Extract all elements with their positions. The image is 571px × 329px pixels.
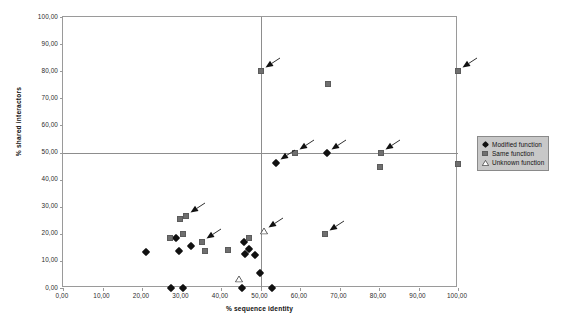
scatter-chart: 0,0010,0020,0030,0040,0050,0060,0070,008… — [0, 0, 571, 329]
data-point-diamond — [172, 234, 180, 242]
x-tick-mark — [379, 288, 380, 291]
data-point-diamond — [167, 284, 175, 292]
data-point-square — [455, 68, 461, 74]
data-point-square — [322, 231, 328, 237]
data-point-diamond — [238, 284, 246, 292]
x-tick-mark — [103, 288, 104, 291]
data-point-diamond — [178, 284, 186, 292]
y-tick-mark — [60, 44, 63, 45]
data-point-diamond — [186, 242, 194, 250]
data-point-square — [183, 213, 189, 219]
y-tick-mark — [60, 153, 63, 154]
data-point-diamond — [323, 149, 331, 157]
data-point-triangle — [235, 276, 243, 283]
x-tick-label: 10,00 — [82, 292, 122, 299]
data-point-square — [167, 235, 173, 241]
legend-item-unknown-function: Unknown function — [481, 158, 544, 167]
y-tick-mark — [60, 98, 63, 99]
x-tick-label: 90,00 — [398, 292, 438, 299]
y-tick-mark — [60, 261, 63, 262]
plot-area — [62, 16, 457, 287]
x-tick-label: 20,00 — [121, 292, 161, 299]
y-tick-label: 70,00 — [42, 94, 59, 101]
x-tick-mark — [221, 288, 222, 291]
y-tick-label: 20,00 — [42, 229, 59, 236]
chart-legend: Modified function Same function Unknown … — [477, 136, 549, 171]
data-point-square — [258, 68, 264, 74]
data-point-diamond — [268, 284, 276, 292]
data-point-square — [225, 247, 231, 253]
y-tick-mark — [60, 180, 63, 181]
y-tick-mark — [60, 207, 63, 208]
data-point-diamond — [271, 159, 279, 167]
y-tick-label: 0,00 — [45, 284, 58, 291]
x-tick-label: 70,00 — [319, 292, 359, 299]
x-tick-label: 80,00 — [358, 292, 398, 299]
legend-item-label: Unknown function — [492, 159, 544, 167]
x-tick-label: 100,00 — [437, 292, 477, 299]
data-point-diamond — [174, 247, 182, 255]
data-point-square — [378, 150, 384, 156]
legend-item-same-function: Same function — [481, 149, 544, 158]
x-tick-label: 30,00 — [161, 292, 201, 299]
legend-item-label: Same function — [492, 150, 534, 158]
y-tick-label: 10,00 — [42, 256, 59, 263]
diamond-marker-icon — [481, 141, 489, 149]
data-point-diamond — [255, 269, 263, 277]
y-tick-label: 100,00 — [38, 13, 58, 20]
y-tick-mark — [60, 17, 63, 18]
y-tick-mark — [60, 125, 63, 126]
x-tick-mark — [300, 288, 301, 291]
x-tick-label: 40,00 — [200, 292, 240, 299]
x-tick-mark — [63, 288, 64, 291]
y-tick-label: 60,00 — [42, 121, 59, 128]
triangle-marker-icon — [481, 159, 489, 167]
x-tick-mark — [340, 288, 341, 291]
x-axis-title: % sequence identity — [62, 305, 457, 312]
data-point-square — [202, 248, 208, 254]
y-tick-mark — [60, 234, 63, 235]
y-axis-title: % shared interactors — [15, 52, 22, 192]
x-tick-label: 60,00 — [279, 292, 319, 299]
legend-item-label: Modified function — [492, 141, 542, 149]
x-tick-label: 50,00 — [240, 292, 280, 299]
data-point-square — [246, 235, 252, 241]
data-point-square — [325, 81, 331, 87]
data-point-diamond — [251, 251, 259, 259]
data-point-square — [292, 150, 298, 156]
y-tick-label: 30,00 — [42, 202, 59, 209]
data-point-square — [377, 164, 383, 170]
data-point-diamond — [142, 248, 150, 256]
legend-item-modified-function: Modified function — [481, 140, 544, 149]
y-tick-label: 90,00 — [42, 40, 59, 47]
x-tick-mark — [261, 288, 262, 291]
data-point-square — [455, 161, 461, 167]
y-tick-label: 50,00 — [42, 148, 59, 155]
data-point-square — [177, 216, 183, 222]
x-tick-mark — [142, 288, 143, 291]
data-point-triangle — [260, 228, 268, 235]
square-marker-icon — [481, 150, 489, 158]
x-tick-mark — [458, 288, 459, 291]
y-tick-label: 40,00 — [42, 175, 59, 182]
data-point-square — [199, 239, 205, 245]
x-tick-label: 0,00 — [42, 292, 82, 299]
y-tick-label: 80,00 — [42, 67, 59, 74]
x-tick-mark — [419, 288, 420, 291]
data-point-square — [180, 231, 186, 237]
y-tick-mark — [60, 71, 63, 72]
vertical-reference-line — [261, 17, 262, 288]
